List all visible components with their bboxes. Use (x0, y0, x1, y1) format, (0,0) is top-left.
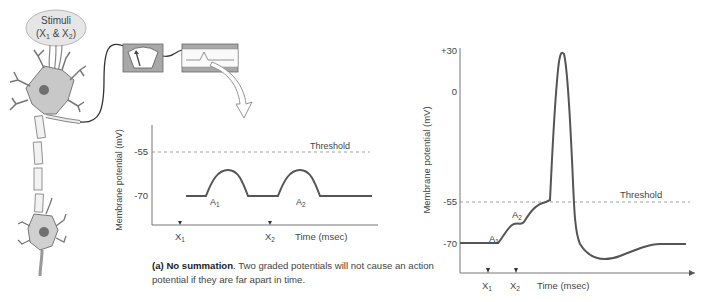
neuron-presynaptic-icon (10, 50, 86, 114)
wire (80, 44, 124, 122)
stimuli-label-line1: Stimuli (41, 15, 71, 26)
stimulus-x1-marker (178, 221, 182, 225)
wire (163, 50, 182, 56)
x-axis-label: Time (msec) (537, 280, 589, 291)
tick-minus55: -55 (134, 146, 148, 157)
chart-temporal-summation: Membrane potential (mV) +30 0 -55 -70 Th… (421, 45, 695, 292)
threshold-label: Threshold (620, 189, 662, 200)
caption-title: (a) No summation (152, 260, 233, 271)
figure-caption: (a) No summation. Two graded potentials … (152, 259, 452, 287)
voltmeter-icon (123, 44, 163, 72)
event-a1-label: A1 (489, 233, 499, 245)
nucleus-icon (39, 227, 49, 237)
stimulus-x2-marker (268, 221, 272, 225)
threshold-label: Threshold (310, 141, 350, 151)
figure-canvas: Stimuli (X1 & X2) (0, 0, 706, 302)
stimulus-x1-label: X1 (175, 231, 185, 243)
event-a1-label: A1 (210, 197, 220, 208)
nucleus-icon (39, 85, 49, 95)
axon-icon (33, 116, 45, 213)
stimuli-bubble: Stimuli (X1 & X2) (26, 10, 86, 46)
oscilloscope-icon (182, 44, 238, 72)
event-a2-label: A2 (296, 197, 306, 208)
stimulus-x2-label: X2 (510, 280, 520, 292)
x-axis-arrow-icon (689, 270, 695, 276)
chart-no-summation: Membrane potential (mV) -55 -70 Threshol… (114, 125, 378, 243)
y-axis-label: Membrane potential (mV) (114, 129, 124, 231)
event-a2-label: A2 (512, 209, 522, 221)
tick-minus70: -70 (443, 238, 457, 249)
stimulus-x1-marker (486, 268, 490, 273)
tick-minus70: -70 (134, 190, 148, 201)
tick-minus55: -55 (443, 196, 457, 207)
y-axis-label: Membrane potential (mV) (421, 106, 432, 213)
tick-plus30: +30 (441, 45, 457, 56)
membrane-trace (186, 170, 372, 196)
stimulus-x2-label: X2 (265, 231, 275, 243)
stimulus-x1-label: X1 (482, 280, 492, 292)
tick-zero: 0 (452, 86, 457, 97)
membrane-trace (460, 53, 686, 259)
stimulus-x2-marker (514, 268, 518, 273)
x-axis-label: Time (msec) (295, 231, 347, 242)
